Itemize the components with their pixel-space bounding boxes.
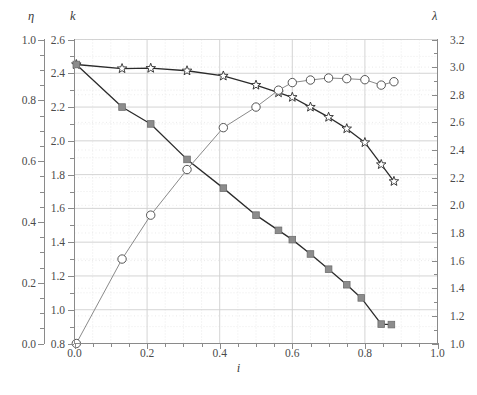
plot-canvas bbox=[0, 0, 477, 395]
square-marker bbox=[378, 321, 385, 328]
tick-k bbox=[70, 259, 74, 260]
tick-label-i: 0.4 bbox=[213, 347, 227, 359]
tick-eta bbox=[40, 176, 44, 177]
tick-label-lambda: 2.6 bbox=[450, 116, 464, 128]
star-marker bbox=[306, 102, 316, 111]
tick-label-eta: 1.0 bbox=[22, 34, 36, 46]
tick-k bbox=[68, 276, 74, 277]
square-marker bbox=[325, 266, 332, 273]
tick-label-k: 2.0 bbox=[51, 135, 65, 147]
circle-marker bbox=[219, 123, 227, 131]
tick-label-lambda: 2.4 bbox=[450, 144, 464, 156]
tick-lambda bbox=[432, 233, 438, 234]
tick-lambda bbox=[432, 261, 438, 262]
square-marker bbox=[289, 236, 296, 243]
tick-label-eta: 0.4 bbox=[22, 216, 36, 228]
tick-lambda bbox=[434, 81, 438, 82]
tick-label-k: 1.8 bbox=[51, 169, 65, 181]
tick-i bbox=[329, 343, 330, 347]
tick-eta bbox=[40, 70, 44, 71]
tick-label-eta: 0.8 bbox=[22, 94, 36, 106]
tick-eta bbox=[40, 328, 44, 329]
tick-i bbox=[419, 343, 420, 347]
tick-i bbox=[202, 343, 203, 347]
tick-label-lambda: 1.4 bbox=[450, 282, 464, 294]
tick-k bbox=[70, 293, 74, 294]
tick-lambda bbox=[434, 219, 438, 220]
tick-label-lambda: 1.6 bbox=[450, 255, 464, 267]
tick-i bbox=[129, 343, 130, 347]
circle-marker bbox=[183, 165, 191, 173]
tick-label-k: 2.2 bbox=[51, 101, 65, 113]
tick-i bbox=[238, 343, 239, 347]
circle-marker bbox=[252, 103, 260, 111]
tick-i bbox=[256, 343, 257, 347]
tick-lambda bbox=[432, 95, 438, 96]
tick-label-i: 0.6 bbox=[285, 347, 299, 359]
tick-eta bbox=[40, 55, 44, 56]
tick-lambda bbox=[432, 122, 438, 123]
tick-eta bbox=[40, 313, 44, 314]
tick-i bbox=[274, 343, 275, 347]
tick-eta bbox=[40, 131, 44, 132]
tick-k bbox=[68, 175, 74, 176]
tick-label-k: 1.4 bbox=[51, 236, 65, 248]
figure-caption bbox=[0, 380, 477, 395]
tick-k bbox=[70, 225, 74, 226]
tick-label-i: 1.0 bbox=[430, 347, 444, 359]
star-marker bbox=[117, 64, 127, 73]
tick-i bbox=[401, 343, 402, 347]
tick-k bbox=[68, 208, 74, 209]
tick-lambda bbox=[432, 150, 438, 151]
circle-marker bbox=[274, 86, 282, 94]
tick-eta bbox=[40, 85, 44, 86]
tick-k bbox=[68, 310, 74, 311]
square-marker bbox=[253, 212, 260, 219]
tick-label-lambda: 1.0 bbox=[450, 338, 464, 350]
circle-marker bbox=[361, 75, 369, 83]
tick-eta bbox=[38, 283, 44, 284]
tick-k bbox=[70, 327, 74, 328]
tick-label-lambda: 2.0 bbox=[450, 199, 464, 211]
tick-label-k: 2.6 bbox=[51, 34, 65, 46]
tick-k bbox=[68, 107, 74, 108]
tick-label-lambda: 1.2 bbox=[450, 310, 464, 322]
tick-i bbox=[383, 343, 384, 347]
tick-label-lambda: 3.2 bbox=[450, 34, 464, 46]
tick-label-lambda: 3.0 bbox=[450, 61, 464, 73]
tick-i bbox=[183, 343, 184, 347]
square-series bbox=[73, 61, 395, 328]
tick-label-i: 0.0 bbox=[67, 347, 81, 359]
tick-lambda bbox=[434, 274, 438, 275]
square-marker bbox=[275, 227, 282, 234]
figure: η k λ i 0.00.20.40.60.81.00.81.01.21.41.… bbox=[0, 0, 477, 395]
tick-lambda bbox=[434, 302, 438, 303]
tick-i bbox=[93, 343, 94, 347]
tick-lambda bbox=[434, 330, 438, 331]
tick-k bbox=[68, 344, 74, 345]
tick-label-k: 1.6 bbox=[51, 202, 65, 214]
circle-marker bbox=[377, 81, 385, 89]
circle-marker bbox=[306, 76, 314, 84]
circle-series bbox=[72, 74, 398, 348]
square-marker bbox=[358, 295, 365, 302]
tick-lambda bbox=[434, 53, 438, 54]
tick-eta bbox=[38, 40, 44, 41]
tick-eta bbox=[40, 252, 44, 253]
circle-marker bbox=[288, 78, 296, 86]
tick-eta bbox=[38, 344, 44, 345]
tick-k bbox=[70, 158, 74, 159]
tick-label-eta: 0.6 bbox=[22, 155, 36, 167]
tick-label-lambda: 1.8 bbox=[450, 227, 464, 239]
tick-eta bbox=[40, 207, 44, 208]
tick-lambda bbox=[432, 178, 438, 179]
series-layer bbox=[72, 60, 399, 348]
tick-label-k: 1.0 bbox=[51, 304, 65, 316]
tick-eta bbox=[38, 161, 44, 162]
circle-marker bbox=[343, 74, 351, 82]
square-marker bbox=[307, 251, 314, 258]
tick-k bbox=[70, 192, 74, 193]
tick-k bbox=[70, 124, 74, 125]
tick-label-k: 0.8 bbox=[51, 338, 65, 350]
tick-eta bbox=[40, 116, 44, 117]
